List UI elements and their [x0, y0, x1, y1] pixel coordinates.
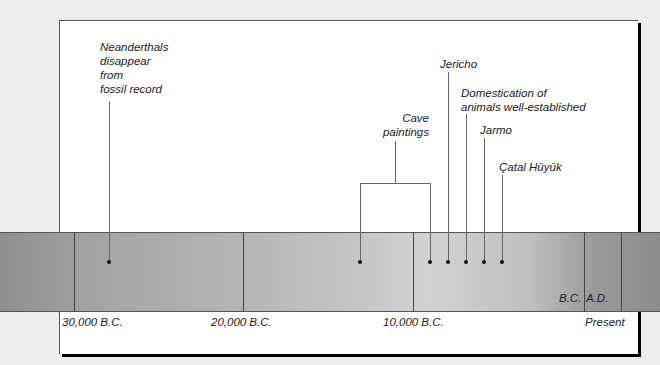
leader-jarmo-band: [484, 232, 485, 261]
label-jarmo: Jarmo: [480, 123, 512, 137]
event-dot-domestication: [464, 260, 468, 264]
bracket-cave-paintings: [360, 183, 431, 184]
label-domestication: Domestication of animals well-establishe…: [461, 86, 586, 114]
leader-cave-paintings-stem: [395, 141, 396, 183]
event-dot-jarmo: [482, 260, 486, 264]
label-catal-huyuk: Çatal Hüyük: [499, 160, 562, 174]
leader-cave-left-band: [360, 232, 361, 261]
label-line: from: [100, 68, 168, 82]
label-20000-bc: 20,000 B.C.: [211, 316, 272, 328]
label-line: Neanderthals: [100, 40, 168, 54]
tick-30000-bc: [74, 232, 75, 312]
tick-bc-ad: [584, 232, 585, 312]
label-line: paintings: [369, 125, 429, 139]
label-line: animals well-established: [461, 100, 586, 114]
leader-catal-band: [502, 232, 503, 261]
tick-present: [621, 232, 622, 312]
event-dot-cave-paintings-a: [358, 260, 362, 264]
label-line: fossil record: [100, 82, 168, 96]
event-dot-jericho: [446, 260, 450, 264]
label-ad: A.D.: [586, 292, 608, 304]
tick-20000-bc: [243, 232, 244, 312]
label-line: disappear: [100, 54, 168, 68]
leader-cave-right-band: [430, 232, 431, 261]
event-dot-neanderthals: [107, 260, 111, 264]
event-dot-cave-paintings-b: [428, 260, 432, 264]
leader-neanderthals-band: [109, 232, 110, 261]
label-line: Domestication of: [461, 86, 586, 100]
label-bc: B.C.: [559, 292, 581, 304]
label-jericho: Jericho: [440, 57, 477, 71]
label-neanderthals: Neanderthals disappear from fossil recor…: [100, 40, 168, 96]
label-line: Cave: [369, 111, 429, 125]
label-10000-bc: 10,000 B.C.: [383, 316, 444, 328]
leader-domestication-band: [466, 232, 467, 261]
label-cave-paintings: Cave paintings: [369, 111, 429, 139]
label-30000-bc: 30,000 B.C.: [62, 316, 123, 328]
leader-jericho-band: [448, 232, 449, 261]
tick-10000-bc: [413, 232, 414, 312]
label-present: Present: [585, 316, 625, 328]
event-dot-catal-huyuk: [500, 260, 504, 264]
